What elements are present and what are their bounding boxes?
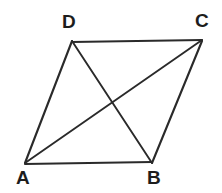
vertex-label-D: D <box>62 12 76 31</box>
diagonal-AC <box>25 40 202 163</box>
vertex-label-B: B <box>147 168 161 187</box>
figure-canvas <box>0 0 222 193</box>
diagonal-DB <box>72 41 152 163</box>
geometry-figure: D C A B <box>0 0 222 193</box>
edge-BC <box>152 41 202 163</box>
vertex-label-A: A <box>16 168 30 187</box>
vertex-label-C: C <box>195 11 209 30</box>
edge-DA <box>25 41 72 163</box>
edge-AB <box>25 162 152 164</box>
edge-CD <box>72 40 202 42</box>
